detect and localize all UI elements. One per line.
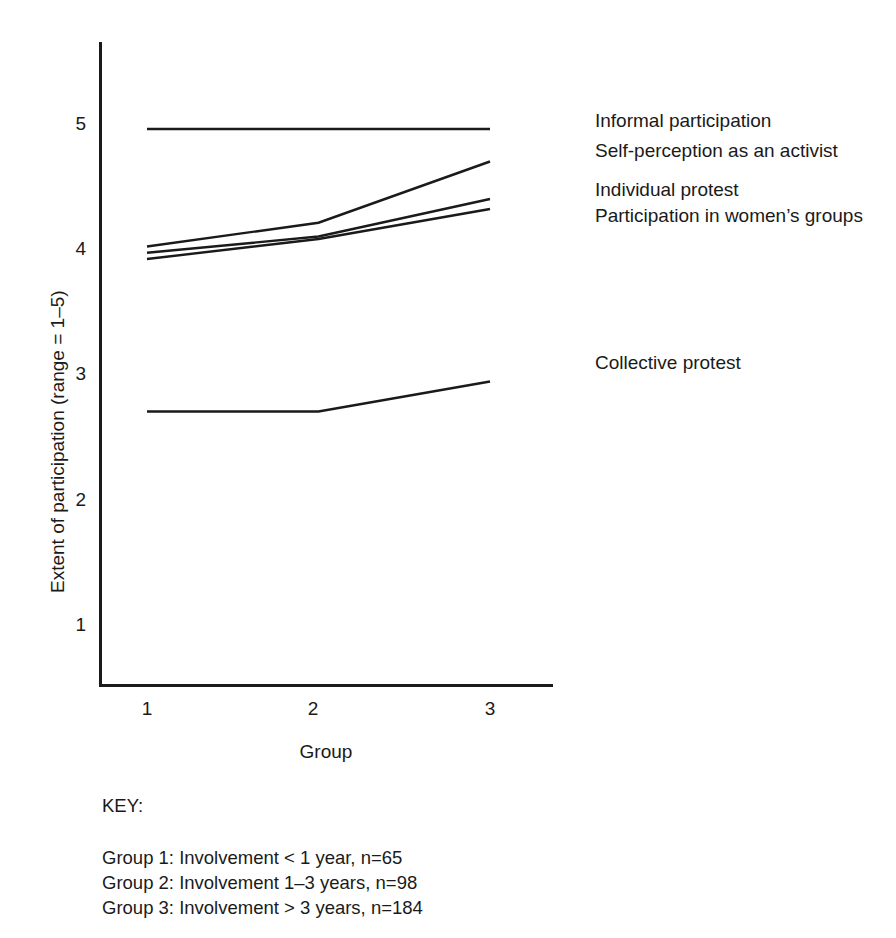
series-label-individual-protest: Individual protest	[595, 177, 739, 203]
series-label-collective-protest: Collective protest	[595, 350, 741, 376]
series-line-self-perception-as-an-activist	[147, 162, 490, 247]
y-tick-label-5: 5	[0, 114, 86, 133]
y-axis-line	[99, 42, 102, 687]
y-tick-label-3: 3	[0, 364, 86, 383]
y-axis-title: Extent of participation (range = 1–5)	[47, 290, 69, 593]
series-label-self-perception-as-an-activist: Self-perception as an activist	[595, 138, 838, 164]
series-label-informal-participation: Informal participation	[595, 108, 771, 134]
figure-participation-by-involvement: Figure 4.1 Participation by length of in…	[0, 0, 896, 938]
series-line-collective-protest	[147, 382, 490, 412]
y-tick-label-2: 2	[0, 490, 86, 509]
key-line-group-3: Group 3: Involvement > 3 years, n=184	[102, 895, 423, 920]
y-tick-label-4: 4	[0, 239, 86, 258]
x-tick-label-1: 1	[127, 698, 167, 720]
y-tick-label-1: 1	[0, 615, 86, 634]
x-axis-line	[99, 684, 553, 687]
series-label-participation-in-womens-groups: Participation in women’s groups	[595, 203, 865, 229]
series-line-individual-protest	[147, 199, 490, 253]
series-line-participation-in-women-s-groups	[147, 209, 490, 259]
key-line-group-1: Group 1: Involvement < 1 year, n=65	[102, 845, 423, 870]
x-tick-label-3: 3	[470, 698, 510, 720]
key-line-group-2: Group 2: Involvement 1–3 years, n=98	[102, 870, 423, 895]
key-block: KEY: Group 1: Involvement < 1 year, n=65…	[102, 793, 423, 920]
x-axis-title: Group	[99, 741, 553, 763]
x-tick-label-2: 2	[293, 698, 333, 720]
key-title: KEY:	[102, 793, 423, 818]
